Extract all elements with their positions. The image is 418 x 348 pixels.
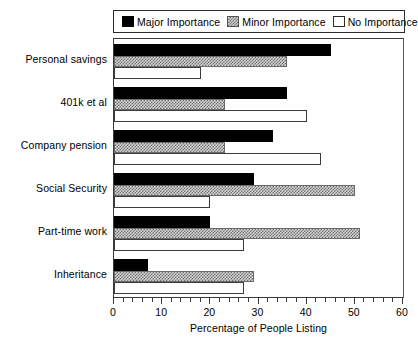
bar-2 [114, 110, 307, 122]
x-axis-major-tick [258, 298, 259, 304]
bar-group [114, 87, 403, 123]
x-axis-major-tick [354, 298, 355, 304]
legend-item-no-importance: No Importance [333, 16, 418, 28]
x-axis-minor-tick [267, 298, 268, 302]
x-axis-minor-tick [325, 298, 326, 302]
bar-1 [114, 56, 287, 67]
x-axis-minor-tick [344, 298, 345, 302]
bar-0 [114, 259, 148, 271]
x-axis-major-tick [402, 298, 403, 304]
bar-group [114, 173, 403, 209]
bar-2 [114, 239, 244, 251]
x-axis-tick-label: 0 [110, 306, 116, 318]
x-axis-minor-tick [248, 298, 249, 302]
x-axis-minor-tick [296, 298, 297, 302]
bar-0 [114, 44, 331, 56]
x-axis-minor-tick [363, 298, 364, 302]
bar-1 [114, 142, 225, 153]
bar-0 [114, 87, 287, 99]
x-axis-minor-tick [238, 298, 239, 302]
x-axis-minor-tick [180, 298, 181, 302]
x-axis-minor-tick [373, 298, 374, 302]
solid-black-swatch-icon [122, 16, 134, 27]
x-axis-minor-tick [335, 298, 336, 302]
bar-2 [114, 196, 210, 208]
x-axis-minor-tick [383, 298, 384, 302]
y-axis-tick-label: Social Security [36, 182, 107, 194]
legend-item-minor-importance: Minor Importance [227, 16, 325, 28]
bar-0 [114, 130, 273, 142]
legend-item-major-importance: Major Importance [122, 16, 220, 28]
x-axis-major-tick [161, 298, 162, 304]
bar-group [114, 259, 403, 295]
bar-1 [114, 185, 355, 196]
y-axis-tick-label: 401k et al [60, 96, 107, 108]
x-axis-title: Percentage of People Listing [113, 322, 404, 334]
x-axis-major-tick [209, 298, 210, 304]
x-axis-major-tick [113, 298, 114, 304]
x-axis-tick-label: 60 [396, 306, 408, 318]
x-axis-minor-tick [286, 298, 287, 302]
bar-0 [114, 173, 254, 185]
legend-label: Major Importance [137, 16, 220, 28]
legend-label: Minor Importance [242, 16, 325, 28]
bar-2 [114, 153, 321, 165]
x-axis-minor-tick [315, 298, 316, 302]
x-axis-tick-label: 30 [252, 306, 264, 318]
x-axis-tick-label: 50 [348, 306, 360, 318]
bar-chart: Major Importance Minor Importance No Imp… [0, 0, 418, 348]
x-axis-minor-tick [200, 298, 201, 302]
x-axis-major-tick [306, 298, 307, 304]
bar-1 [114, 271, 254, 282]
legend-label: No Importance [348, 16, 418, 28]
x-axis-minor-tick [152, 298, 153, 302]
bar-group [114, 44, 403, 80]
x-axis-minor-tick [229, 298, 230, 302]
x-axis-tick-label: 10 [155, 306, 167, 318]
bar-0 [114, 216, 210, 228]
x-axis-tick-label: 40 [300, 306, 312, 318]
y-axis-labels: Personal savings401k et alCompany pensio… [0, 38, 113, 298]
plot-bars [114, 39, 403, 297]
x-axis-minor-tick [277, 298, 278, 302]
bar-group [114, 130, 403, 166]
y-axis-tick-label: Inheritance [54, 268, 107, 280]
bar-2 [114, 282, 244, 294]
x-axis-minor-tick [142, 298, 143, 302]
checkered-gray-swatch-icon [227, 16, 239, 27]
x-axis-minor-tick [132, 298, 133, 302]
x-axis-tick-label: 20 [203, 306, 215, 318]
x-axis-minor-tick [219, 298, 220, 302]
x-axis-minor-tick [190, 298, 191, 302]
plot-area [113, 38, 404, 298]
bar-1 [114, 228, 360, 239]
x-axis-minor-tick [392, 298, 393, 302]
x-axis-minor-tick [171, 298, 172, 302]
y-axis-tick-label: Part-time work [38, 225, 107, 237]
x-axis-minor-tick [123, 298, 124, 302]
empty-white-swatch-icon [333, 16, 345, 27]
bar-2 [114, 67, 201, 79]
bar-1 [114, 99, 225, 110]
y-axis-tick-label: Personal savings [25, 53, 107, 65]
chart-legend: Major Importance Minor Importance No Imp… [113, 10, 405, 33]
bar-group [114, 216, 403, 252]
y-axis-tick-label: Company pension [21, 139, 107, 151]
